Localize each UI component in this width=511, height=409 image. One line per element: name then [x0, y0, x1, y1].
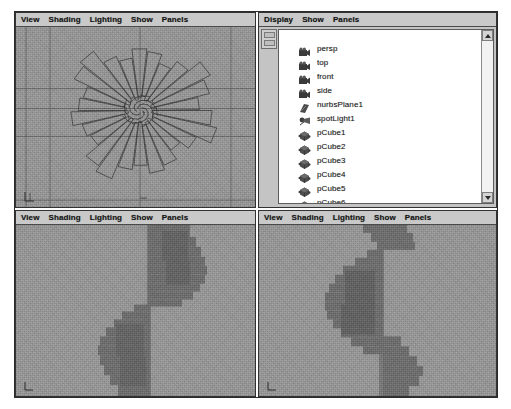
mesh-icon: [298, 170, 311, 181]
spotlight-icon: [298, 117, 311, 128]
persp-menu-view[interactable]: View: [21, 16, 40, 24]
camera-icon: [298, 89, 311, 100]
outliner-list-item[interactable]: pCube5: [279, 182, 481, 196]
front-viewport-canvas[interactable]: [16, 225, 255, 396]
outliner-menu-bar[interactable]: Display Show Panels: [259, 13, 496, 27]
side-viewport-canvas[interactable]: [259, 225, 496, 396]
outliner-list-item[interactable]: pCube3: [279, 154, 481, 168]
mesh-icon: [298, 201, 311, 204]
side-menu-lighting[interactable]: Lighting: [333, 214, 365, 222]
side-menu-shading[interactable]: Shading: [292, 214, 324, 222]
front-menu-lighting[interactable]: Lighting: [90, 214, 122, 222]
side-menu-bar[interactable]: View Shading Lighting Show Panels: [259, 211, 496, 225]
outliner-tool-strip[interactable]: [261, 29, 277, 49]
perspective-viewport-panel[interactable]: View Shading Lighting Show Panels: [15, 12, 256, 208]
outliner-item-label: pCube2: [317, 143, 346, 151]
side-main-blob-shadow: [341, 271, 375, 335]
mesh-icon: [298, 128, 311, 139]
mesh-icon: [298, 145, 311, 156]
side-shaded-shape-graphic: [259, 225, 496, 396]
mesh-icon: [298, 184, 311, 195]
outliner-item-label: pCube4: [317, 171, 346, 179]
camera-icon: [298, 72, 311, 83]
outliner-tool-chip-top[interactable]: [264, 32, 275, 38]
outliner-list-item[interactable]: nurbsPlane1: [279, 98, 481, 112]
outliner-list-item[interactable]: persp: [279, 42, 481, 56]
persp-viewport-canvas[interactable]: [16, 27, 255, 207]
spotlight-icon: [298, 114, 311, 125]
outliner-item-label: spotLight1: [317, 115, 355, 123]
persp-menu-panels[interactable]: Panels: [162, 16, 188, 24]
side-menu-panels[interactable]: Panels: [405, 214, 431, 222]
outliner-menu-show[interactable]: Show: [302, 16, 324, 24]
outliner-panel[interactable]: Display Show Panels persptopfrontsidenur…: [258, 12, 497, 208]
outliner-list-item[interactable]: pCube6: [279, 196, 481, 203]
outliner-list-frame: persptopfrontsidenurbsPlane1spotLight1pC…: [278, 29, 494, 204]
camera-icon: [298, 86, 311, 97]
persp-menu-bar[interactable]: View Shading Lighting Show Panels: [16, 13, 255, 27]
side-lower-tail: [383, 336, 423, 396]
scroll-up-button[interactable]: [482, 30, 493, 41]
scroll-up-arrow-icon: [485, 34, 491, 38]
scroll-down-arrow-icon: [485, 196, 491, 200]
side-top-cap: [363, 225, 415, 250]
nurbs-plane-icon: [298, 103, 311, 114]
front-menu-bar[interactable]: View Shading Lighting Show Panels: [16, 211, 255, 225]
camera-icon: [298, 75, 311, 86]
mesh-icon: [298, 187, 311, 198]
front-menu-view[interactable]: View: [21, 214, 40, 222]
outliner-list-item[interactable]: pCube2: [279, 140, 481, 154]
outliner-tool-chip-bottom[interactable]: [264, 40, 275, 46]
outliner-item-label: nurbsPlane1: [317, 101, 363, 109]
mesh-icon: [298, 159, 311, 170]
mesh-icon: [298, 198, 311, 204]
outliner-item-label: top: [317, 59, 328, 67]
outliner-item-label: persp: [317, 45, 338, 53]
camera-icon: [298, 44, 311, 55]
mesh-icon: [298, 173, 311, 184]
mesh-icon: [298, 142, 311, 153]
outliner-item-label: pCube3: [317, 157, 346, 165]
side-menu-view[interactable]: View: [264, 214, 283, 222]
application-window: View Shading Lighting Show Panels: [14, 11, 498, 398]
outliner-list-item[interactable]: pCube4: [279, 168, 481, 182]
outliner-menu-display[interactable]: Display: [264, 16, 293, 24]
front-shaded-viewport-panel[interactable]: View Shading Lighting Show Panels: [15, 210, 256, 397]
nurbs-plane-icon: [298, 100, 311, 111]
persp-wireframe-graphic: [16, 27, 255, 207]
camera-icon: [298, 58, 311, 69]
persp-menu-lighting[interactable]: Lighting: [90, 16, 122, 24]
camera-icon: [298, 61, 311, 72]
outliner-list-item[interactable]: side: [279, 84, 481, 98]
camera-icon: [298, 47, 311, 58]
outliner-list-item[interactable]: front: [279, 70, 481, 84]
outliner-list-item[interactable]: spotLight1: [279, 112, 481, 126]
outliner-item-label: pCube5: [317, 185, 346, 193]
outliner-item-label: pCube6: [317, 199, 346, 203]
persp-menu-show[interactable]: Show: [131, 16, 153, 24]
front-shaded-shape-graphic: [16, 225, 255, 396]
outliner-item-label: side: [317, 87, 332, 95]
front-lower-blob-shadow: [116, 324, 146, 386]
outliner-item-label: pCube1: [317, 129, 346, 137]
front-menu-show[interactable]: Show: [131, 214, 153, 222]
persp-menu-shading[interactable]: Shading: [49, 16, 81, 24]
side-shaded-viewport-panel[interactable]: View Shading Lighting Show Panels: [258, 210, 497, 397]
outliner-item-list[interactable]: persptopfrontsidenurbsPlane1spotLight1pC…: [279, 30, 481, 203]
mesh-icon: [298, 156, 311, 167]
outliner-list-item[interactable]: top: [279, 56, 481, 70]
outliner-item-label: front: [317, 73, 334, 81]
front-menu-shading[interactable]: Shading: [49, 214, 81, 222]
front-upper-blob-shadow: [162, 231, 190, 285]
front-menu-panels[interactable]: Panels: [162, 214, 188, 222]
outliner-menu-panels[interactable]: Panels: [333, 16, 359, 24]
scroll-down-button[interactable]: [482, 192, 493, 203]
outliner-vertical-scrollbar[interactable]: [481, 30, 493, 203]
side-menu-show[interactable]: Show: [374, 214, 396, 222]
outliner-list-item[interactable]: pCube1: [279, 126, 481, 140]
scrollbar-track[interactable]: [482, 41, 493, 192]
mesh-icon: [298, 131, 311, 142]
outliner-body: persptopfrontsidenurbsPlane1spotLight1pC…: [259, 27, 496, 207]
